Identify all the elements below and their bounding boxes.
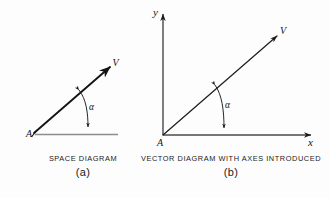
panel-a-vector-arrow [34,67,110,133]
panel-a-angle-label: α [89,102,95,112]
panel-a-angle-arc [79,90,88,127]
panel-b-vector-label: V [280,25,288,36]
panel-b-angle-label: α [225,100,231,110]
panel-b-y-axis-label: y [152,6,158,18]
panel-b-caption-title: VECTOR DIAGRAM WITH AXES INTRODUCED [132,154,330,163]
panel-b-origin-label: A [156,137,164,148]
panel-b-angle-arc [215,85,224,128]
panel-a-origin-label: A [25,128,33,139]
panel-a-vector-label: V [113,57,121,68]
panel-b-caption-label: (b) [132,166,330,178]
figure-canvas: A V α y x A V α SPACE DIAGRAM (a) VECTOR… [0,0,330,197]
panel-b-vector-arrow [163,36,277,135]
panel-b-vector-diagram: y x A V α [152,6,313,148]
panel-a-space-diagram: A V α [25,57,121,139]
panel-a-origin-tick [32,130,38,137]
panel-b-x-axis-label: x [307,136,313,148]
